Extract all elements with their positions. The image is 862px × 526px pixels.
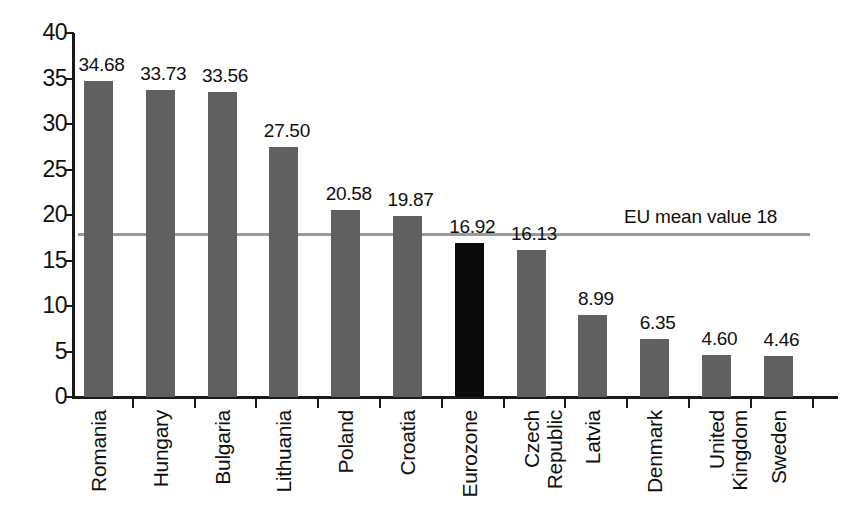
bar — [455, 243, 484, 397]
category-label: UnitedKingdom — [706, 410, 726, 520]
category-label-line: Croatia — [397, 410, 418, 476]
x-tick-mark — [194, 399, 196, 408]
x-tick-mark — [379, 399, 381, 408]
bar — [764, 356, 793, 397]
x-tick-mark — [132, 399, 134, 408]
category-label: Romania — [88, 410, 108, 520]
y-tick-label: 5 — [27, 340, 67, 363]
bar-value-label: 6.35 — [623, 313, 693, 332]
bar-value-label: 33.73 — [128, 64, 198, 83]
bar — [702, 355, 731, 397]
bar — [84, 81, 113, 397]
bar — [640, 339, 669, 397]
y-tick-mark — [66, 169, 74, 171]
bar — [578, 315, 607, 397]
category-label-line: Bulgaria — [212, 410, 233, 485]
y-tick-label: 25 — [27, 158, 67, 181]
y-tick-mark — [66, 78, 74, 80]
category-label: Croatia — [397, 410, 417, 520]
bar-value-label: 16.13 — [499, 224, 569, 243]
category-label-line: Republic — [544, 410, 565, 489]
category-label-line: Lithuania — [273, 410, 294, 493]
category-label-line: Latvia — [582, 410, 603, 464]
category-label-line: Romania — [88, 410, 109, 492]
category-label: Sweden — [768, 410, 788, 520]
x-tick-mark — [688, 399, 690, 408]
bar-value-label: 4.46 — [746, 330, 816, 349]
bar — [146, 90, 175, 397]
y-tick-mark — [66, 32, 74, 34]
bar — [331, 210, 360, 397]
x-tick-mark — [750, 399, 752, 408]
category-label: Denmark — [644, 410, 664, 520]
category-label-line: Eurozone — [459, 410, 480, 498]
bar-value-label: 33.56 — [190, 66, 260, 85]
category-label: Bulgaria — [212, 410, 232, 520]
category-label: Eurozone — [459, 410, 479, 520]
x-tick-mark — [255, 399, 257, 408]
x-tick-mark — [626, 399, 628, 408]
bar-value-label: 16.92 — [437, 217, 507, 236]
bar-value-label: 27.50 — [252, 121, 322, 140]
category-label: Hungary — [150, 410, 170, 520]
y-tick-mark — [66, 305, 74, 307]
category-label-line: Kingdom — [729, 410, 750, 491]
y-tick-label: 35 — [27, 67, 67, 90]
y-tick-label: 10 — [27, 294, 67, 317]
y-tick-mark — [66, 260, 74, 262]
category-label: CzechRepublic — [521, 410, 541, 520]
x-tick-mark — [564, 399, 566, 408]
y-tick-mark — [66, 396, 74, 398]
x-tick-mark — [812, 399, 814, 408]
category-label-line: Poland — [335, 410, 356, 474]
y-tick-mark — [66, 214, 74, 216]
y-tick-mark — [66, 123, 74, 125]
x-tick-mark — [503, 399, 505, 408]
y-tick-label: 30 — [27, 112, 67, 135]
category-label: Poland — [335, 410, 355, 520]
category-label: Lithuania — [273, 410, 293, 520]
eu-mean-reference-label: EU mean value 18 — [624, 207, 777, 226]
y-tick-mark — [66, 351, 74, 353]
y-tick-label: 0 — [27, 385, 67, 408]
y-axis-line — [72, 33, 75, 399]
x-tick-mark — [441, 399, 443, 408]
category-label-line: Hungary — [150, 410, 171, 487]
category-label-line: Denmark — [644, 410, 665, 493]
category-label-line: Czech — [521, 410, 542, 468]
category-label-line: United — [706, 410, 727, 469]
bar-value-label: 34.68 — [67, 55, 137, 74]
bar — [393, 216, 422, 397]
x-tick-mark — [317, 399, 319, 408]
bar-value-label: 4.60 — [685, 329, 755, 348]
y-tick-label: 20 — [27, 203, 67, 226]
y-tick-label: 15 — [27, 249, 67, 272]
bar-value-label: 19.87 — [376, 190, 446, 209]
bar-chart: 4035302520151050 EU mean value 18 34.683… — [0, 0, 862, 526]
y-tick-label: 40 — [27, 21, 67, 44]
bar — [208, 92, 237, 397]
bar — [517, 250, 546, 397]
bar — [269, 147, 298, 397]
bar-value-label: 20.58 — [314, 184, 384, 203]
category-label-line: Sweden — [768, 410, 789, 484]
bar-value-label: 8.99 — [561, 289, 631, 308]
category-label: Latvia — [582, 410, 602, 520]
